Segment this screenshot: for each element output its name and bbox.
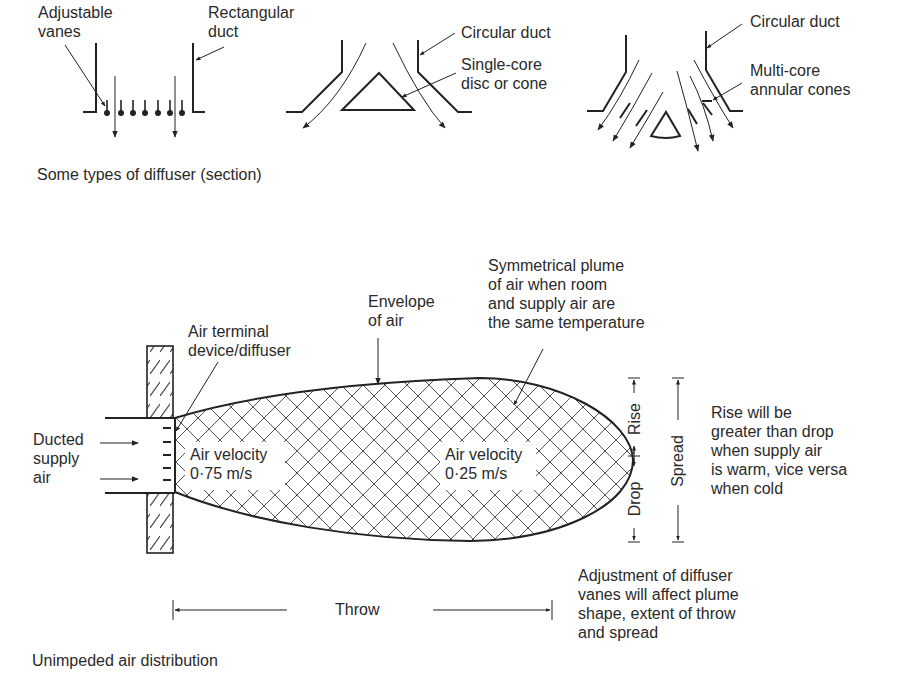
- label-circular-duct-multi: Circular duct: [750, 12, 840, 31]
- label-air-velocity-far: Air velocity 0·25 m/s: [445, 445, 522, 483]
- caption-diffuser-types: Some types of diffuser (section): [37, 165, 262, 184]
- label-envelope-of-air: Envelope of air: [368, 292, 435, 330]
- label-circular-duct-single: Circular duct: [461, 23, 551, 42]
- wall: [105, 346, 175, 553]
- label-rise-note: Rise will be greater than drop when supp…: [711, 403, 847, 498]
- label-air-velocity-near: Air velocity 0·75 m/s: [190, 445, 267, 483]
- label-multi-core-cones: Multi-core annular cones: [750, 61, 851, 99]
- dimension-spread-label: Spread: [669, 433, 687, 489]
- dimension-throw-label: Throw: [335, 600, 379, 619]
- label-single-core-cone: Single-core disc or cone: [461, 55, 547, 93]
- label-symmetrical-plume: Symmetrical plume of air when room and s…: [488, 256, 645, 332]
- label-adjustable-vanes: Adjustable vanes: [38, 3, 113, 41]
- rectangular-diffuser: [65, 43, 224, 137]
- dimension-rise-label: Rise: [626, 399, 644, 439]
- diagram-canvas: [0, 0, 908, 699]
- caption-unimpeded-distribution: Unimpeded air distribution: [32, 651, 218, 670]
- dimension-drop-label: Drop: [626, 477, 644, 521]
- label-ducted-supply-air: Ducted supply air: [33, 430, 84, 487]
- label-air-terminal-device: Air terminal device/diffuser: [188, 322, 291, 360]
- label-adjustment-note: Adjustment of diffuser vanes will affect…: [578, 566, 739, 642]
- multi-core-diffuser: [587, 24, 743, 151]
- single-core-diffuser: [286, 33, 472, 128]
- label-rectangular-duct: Rectangular duct: [208, 3, 294, 41]
